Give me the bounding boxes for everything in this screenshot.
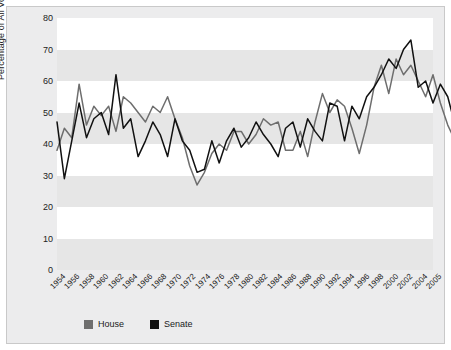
y-tick-label: 30 bbox=[29, 172, 53, 181]
legend-swatch-icon bbox=[84, 320, 93, 329]
y-tick-label: 50 bbox=[29, 109, 53, 118]
chart-legend: HouseSenate bbox=[84, 320, 193, 329]
legend-entry-senate: Senate bbox=[150, 320, 193, 329]
y-axis-title: Percentage of All Votes bbox=[0, 0, 6, 80]
y-tick-label: 80 bbox=[29, 14, 53, 23]
legend-swatch-icon bbox=[150, 320, 159, 329]
y-tick-label: 60 bbox=[29, 77, 53, 86]
plot-area bbox=[57, 18, 433, 270]
legend-label: Senate bbox=[164, 320, 193, 329]
y-tick-label: 20 bbox=[29, 203, 53, 212]
legend-label: House bbox=[98, 320, 124, 329]
chart-figure: Percentage of All Votes 8070605040302010… bbox=[0, 0, 451, 350]
y-tick-label: 40 bbox=[29, 140, 53, 149]
series-lines bbox=[57, 18, 433, 270]
x-axis-ticks: 1954195619581960196219641966196819701972… bbox=[57, 272, 433, 312]
y-tick-label: 70 bbox=[29, 46, 53, 55]
series-line-senate bbox=[57, 40, 451, 179]
y-tick-label: 10 bbox=[29, 235, 53, 244]
legend-entry-house: House bbox=[84, 320, 124, 329]
y-axis-ticks: 80706050403020100 bbox=[25, 18, 53, 270]
y-tick-label: 0 bbox=[29, 266, 53, 275]
